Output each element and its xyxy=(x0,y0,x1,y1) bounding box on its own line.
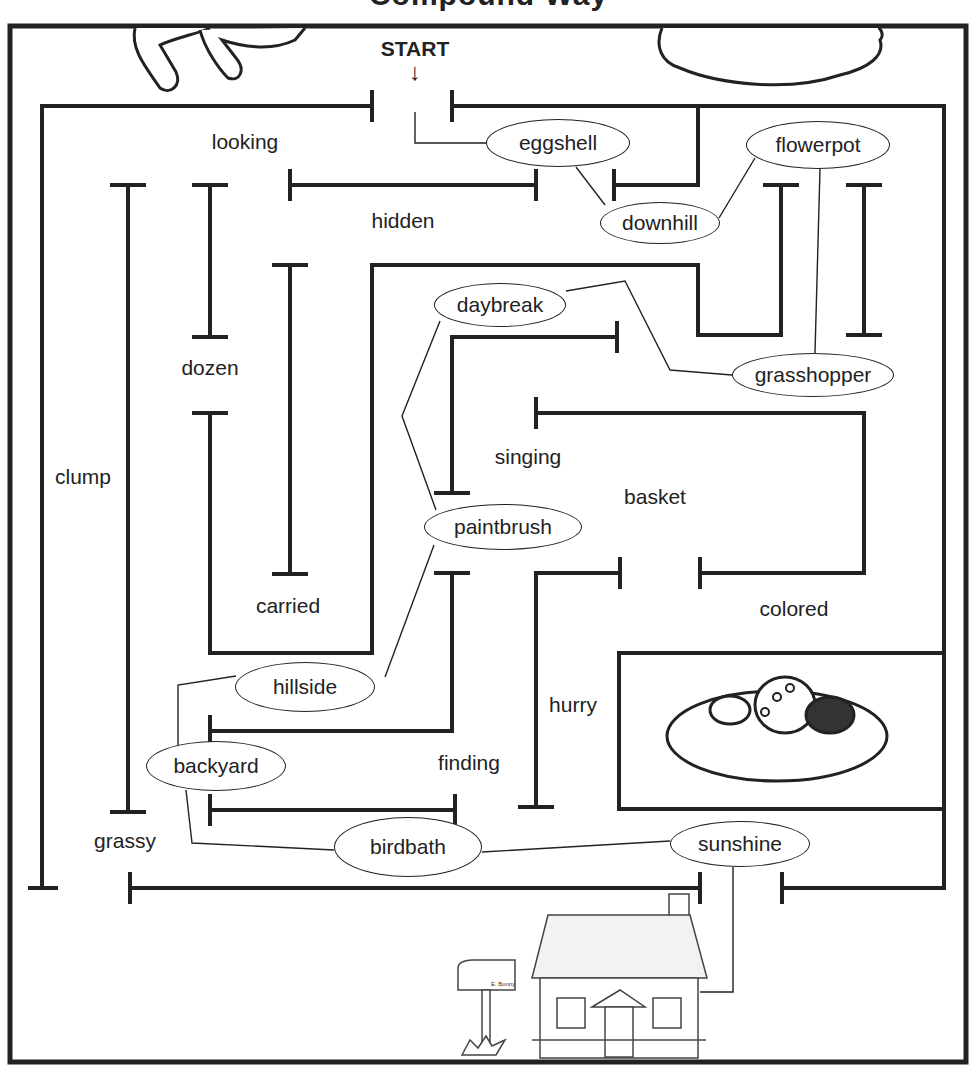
compound-word-oval-backyard: backyard xyxy=(146,741,286,791)
maze-word-singing: singing xyxy=(495,445,562,469)
start-label: START ↓ xyxy=(381,37,449,83)
maze-word-finding: finding xyxy=(438,751,500,775)
start-arrow-icon: ↓ xyxy=(381,61,449,83)
compound-word-oval-birdbath: birdbath xyxy=(334,817,482,877)
compound-word-oval-downhill: downhill xyxy=(600,202,720,244)
compound-word-oval-grasshopper: grasshopper xyxy=(732,353,894,397)
maze-word-hurry: hurry xyxy=(549,693,597,717)
maze-word-looking: looking xyxy=(212,130,279,154)
nest-eggs-illustration xyxy=(667,677,887,781)
maze-word-grassy: grassy xyxy=(94,829,156,853)
mailbox-label: E. Bunny xyxy=(491,981,515,987)
compound-word-oval-eggshell: eggshell xyxy=(486,119,630,167)
compound-word-oval-hillside: hillside xyxy=(235,662,375,712)
compound-word-oval-paintbrush: paintbrush xyxy=(424,504,582,550)
bunny-feet-illustration xyxy=(134,28,305,90)
maze-word-basket: basket xyxy=(624,485,686,509)
compound-word-oval-flowerpot: flowerpot xyxy=(746,121,890,169)
maze-word-colored: colored xyxy=(760,597,829,621)
maze-worksheet: Compound Way xyxy=(0,0,977,1072)
maze-word-hidden: hidden xyxy=(371,209,434,233)
maze-word-carried: carried xyxy=(256,594,320,618)
compound-word-oval-sunshine: sunshine xyxy=(670,821,810,867)
house-illustration xyxy=(458,894,707,1058)
compound-word-oval-daybreak: daybreak xyxy=(434,283,566,327)
maze-word-dozen: dozen xyxy=(181,356,238,380)
maze-word-clump: clump xyxy=(55,465,111,489)
nest-top-illustration xyxy=(659,28,882,85)
